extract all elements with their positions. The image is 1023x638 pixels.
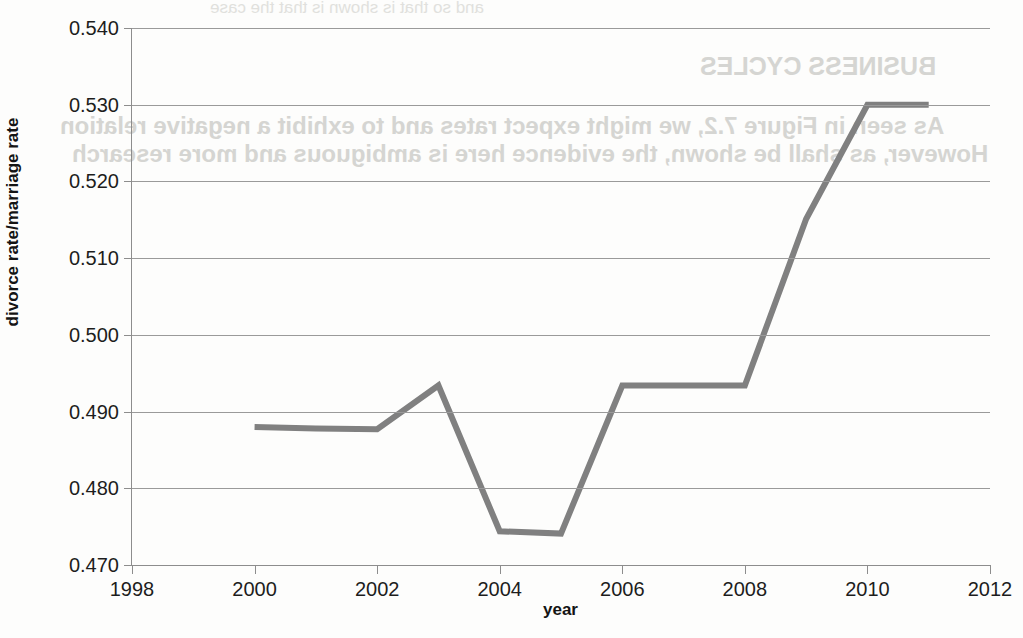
x-axis-tick-label: 2010: [845, 578, 890, 601]
x-axis-tick-label: 2002: [355, 578, 400, 601]
y-axis-title: divorce rate/marriage rate: [3, 57, 23, 387]
x-axis-tick-label: 2008: [723, 578, 768, 601]
data-line-series: [132, 28, 991, 566]
y-axis-tick: [124, 28, 132, 29]
show-through-text-line-1: and so that is shown is that the case: [210, 0, 484, 18]
y-axis-tick-label: 0.470: [69, 554, 119, 577]
x-axis-tick: [990, 565, 991, 574]
x-axis-tick: [622, 565, 623, 574]
gridline-horizontal: [132, 258, 990, 259]
x-axis-tick-label: 2000: [232, 578, 277, 601]
gridline-horizontal: [132, 488, 990, 489]
y-axis-tick: [124, 105, 132, 106]
gridline-horizontal: [132, 105, 990, 106]
y-axis-tick: [124, 258, 132, 259]
x-axis-tick: [745, 565, 746, 574]
y-axis-tick: [124, 412, 132, 413]
y-axis-tick-label: 0.540: [69, 17, 119, 40]
x-axis-tick-label: 2004: [477, 578, 522, 601]
y-axis-tick-label: 0.520: [69, 170, 119, 193]
gridline-horizontal: [132, 412, 990, 413]
y-axis-tick: [124, 181, 132, 182]
plot-area: 0.4700.4800.4900.5000.5100.5200.5300.540…: [131, 28, 990, 566]
x-axis-tick-label: 2006: [600, 578, 645, 601]
y-axis-tick: [124, 335, 132, 336]
scanned-chart-page: and so that is shown is that the case BU…: [0, 0, 1023, 638]
y-axis-tick-label: 0.510: [69, 247, 119, 270]
y-axis-tick: [124, 488, 132, 489]
x-axis-tick: [255, 565, 256, 574]
x-axis-tick-label: 1998: [110, 578, 155, 601]
y-axis-tick-label: 0.480: [69, 477, 119, 500]
x-axis-tick-label: 2012: [968, 578, 1013, 601]
y-axis-tick: [124, 565, 132, 566]
x-axis-title: year: [131, 600, 990, 620]
y-axis-tick-label: 0.500: [69, 323, 119, 346]
x-axis-tick: [867, 565, 868, 574]
x-axis-tick: [500, 565, 501, 574]
gridline-horizontal: [132, 335, 990, 336]
y-axis-tick-label: 0.490: [69, 400, 119, 423]
gridline-horizontal: [132, 28, 990, 29]
x-axis-tick: [132, 565, 133, 574]
y-axis-tick-label: 0.530: [69, 93, 119, 116]
gridline-horizontal: [132, 181, 990, 182]
x-axis-tick: [377, 565, 378, 574]
